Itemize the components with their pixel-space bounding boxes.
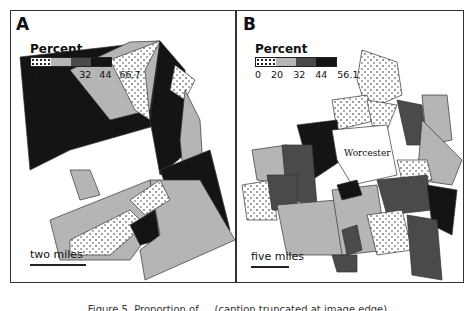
swatch-black <box>91 58 111 66</box>
swatch-dark-gray <box>71 58 91 66</box>
panel-a: A Percent <box>10 10 235 283</box>
legend-breaks-a: 12.3 20 32 44 66.7 <box>30 69 141 80</box>
legend-break: 32 <box>79 69 91 80</box>
scale-label-a: two miles <box>30 248 83 261</box>
swatch-black <box>316 58 336 66</box>
legend-a: Percent 12.3 20 32 44 66.7 <box>30 42 141 80</box>
legend-break: 56.1 <box>337 69 358 80</box>
legend-break: 32 <box>293 69 305 80</box>
legend-break: 20 <box>59 69 71 80</box>
legend-swatches-b <box>255 57 337 67</box>
legend-title-a: Percent <box>30 42 141 56</box>
scale-bar-a: two miles <box>30 248 86 266</box>
legend-break: 66.7 <box>119 69 140 80</box>
panel-b: B <box>237 10 464 283</box>
legend-break: 20 <box>271 69 283 80</box>
legend-break: 44 <box>99 69 111 80</box>
legend-b: Percent 0 20 32 44 56.1 <box>255 42 358 80</box>
swatch-dotted <box>256 58 276 66</box>
swatch-light-gray <box>276 58 296 66</box>
figure-caption: Figure 5. Proportion of ... (caption tru… <box>0 300 475 311</box>
legend-break: 44 <box>315 69 327 80</box>
swatch-light-gray <box>51 58 71 66</box>
swatch-dotted <box>31 58 51 66</box>
legend-break: 12.3 <box>30 69 51 80</box>
legend-swatches-a <box>30 57 112 67</box>
swatch-dark-gray <box>296 58 316 66</box>
scale-line-a <box>30 264 86 266</box>
legend-breaks-b: 0 20 32 44 56.1 <box>255 69 358 80</box>
legend-title-b: Percent <box>255 42 358 56</box>
legend-break: 0 <box>255 69 261 80</box>
scale-line-b <box>251 266 289 268</box>
city-label-worcester: Worcester <box>344 148 391 158</box>
scale-bar-b: five miles <box>251 250 304 268</box>
scale-label-b: five miles <box>251 250 304 263</box>
